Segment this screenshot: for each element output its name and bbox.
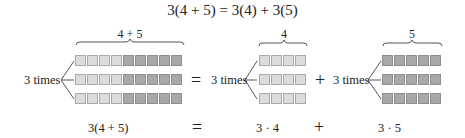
dark-cell xyxy=(135,55,146,66)
dark-cell xyxy=(123,55,134,66)
dark-cell xyxy=(430,55,441,66)
light-cell xyxy=(87,74,98,85)
brace-label-4-plus-5: 4 + 5 xyxy=(110,27,150,42)
dark-cell xyxy=(406,93,417,104)
dark-cell xyxy=(159,55,170,66)
light-cell xyxy=(271,93,282,104)
bottom-expression-left: 3(4 + 5) xyxy=(88,121,128,136)
bar-row-group-3 xyxy=(382,74,442,86)
light-cell xyxy=(295,55,306,66)
bar-row-group-2 xyxy=(259,74,307,86)
light-cell xyxy=(75,74,86,85)
dark-cell xyxy=(382,93,393,104)
light-cell xyxy=(271,55,282,66)
times-label-group-1: 3 times xyxy=(24,73,60,88)
bar-row-group-2 xyxy=(259,93,307,105)
dark-cell xyxy=(382,55,393,66)
dark-cell xyxy=(430,74,441,85)
dark-cell xyxy=(394,74,405,85)
dark-cell xyxy=(430,93,441,104)
light-cell xyxy=(87,93,98,104)
light-cell xyxy=(75,55,86,66)
light-cell xyxy=(75,93,86,104)
dark-cell xyxy=(159,74,170,85)
light-cell xyxy=(295,93,306,104)
dark-cell xyxy=(123,93,134,104)
dark-cell xyxy=(159,93,170,104)
dark-cell xyxy=(418,55,429,66)
light-cell xyxy=(99,74,110,85)
bottom-plus-sign: + xyxy=(314,118,324,136)
dark-cell xyxy=(147,55,158,66)
light-cell xyxy=(111,93,122,104)
light-cell xyxy=(283,74,294,85)
light-cell xyxy=(99,55,110,66)
dark-cell xyxy=(135,74,146,85)
light-cell xyxy=(87,55,98,66)
light-cell xyxy=(99,93,110,104)
bar-row-group-3 xyxy=(382,93,442,105)
dark-cell xyxy=(147,93,158,104)
dark-cell xyxy=(394,55,405,66)
bar-row-group-1 xyxy=(75,55,183,67)
brace-label-4: 4 xyxy=(274,27,294,42)
bar-row-group-1 xyxy=(75,74,183,86)
times-label-group-3: 3 times xyxy=(333,73,369,88)
light-cell xyxy=(111,55,122,66)
light-cell xyxy=(259,55,270,66)
light-cell xyxy=(283,93,294,104)
dark-cell xyxy=(171,93,182,104)
bar-row-group-2 xyxy=(259,55,307,67)
dark-cell xyxy=(418,74,429,85)
brackets-and-fan-lines xyxy=(0,0,465,138)
dark-cell xyxy=(418,93,429,104)
bar-row-group-3 xyxy=(382,55,442,67)
times-label-group-2: 3 times xyxy=(211,73,247,88)
light-cell xyxy=(283,55,294,66)
bottom-expression-middle: 3 · 4 xyxy=(256,121,279,136)
bottom-equals-sign: = xyxy=(192,118,202,136)
bottom-expression-right: 3 · 5 xyxy=(378,121,401,136)
light-cell xyxy=(295,74,306,85)
dark-cell xyxy=(406,55,417,66)
brace-label-5: 5 xyxy=(402,27,422,42)
dark-cell xyxy=(406,74,417,85)
dark-cell xyxy=(171,55,182,66)
dark-cell xyxy=(135,93,146,104)
light-cell xyxy=(259,74,270,85)
dark-cell xyxy=(147,74,158,85)
light-cell xyxy=(111,74,122,85)
dark-cell xyxy=(382,74,393,85)
light-cell xyxy=(271,74,282,85)
dark-cell xyxy=(123,74,134,85)
dark-cell xyxy=(394,93,405,104)
dark-cell xyxy=(171,74,182,85)
equals-sign: = xyxy=(191,71,201,89)
light-cell xyxy=(259,93,270,104)
plus-sign: + xyxy=(315,71,325,89)
bar-row-group-1 xyxy=(75,93,183,105)
